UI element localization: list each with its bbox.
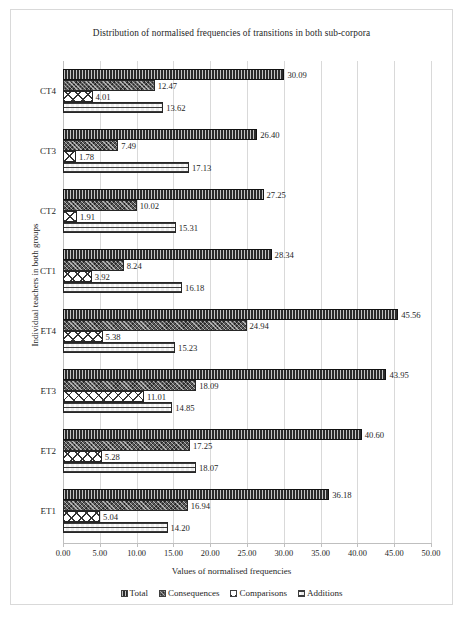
bar-value-label: 14.20 bbox=[168, 523, 190, 533]
legend-item[interactable]: Total bbox=[121, 588, 148, 598]
bar[interactable] bbox=[63, 522, 168, 533]
bar-value-label: 11.01 bbox=[144, 392, 166, 402]
x-axis-tick-label: 20.00 bbox=[201, 549, 220, 558]
bar-row: 18.09 bbox=[63, 380, 431, 391]
bar-value-label: 8.24 bbox=[124, 261, 142, 271]
legend-swatch-icon bbox=[230, 590, 237, 597]
legend-item[interactable]: Additions bbox=[298, 588, 343, 598]
x-axis-tick bbox=[173, 543, 174, 547]
category-label: ET3 bbox=[41, 386, 57, 396]
bar[interactable] bbox=[63, 440, 190, 451]
x-axis-tick bbox=[210, 543, 211, 547]
bar-row: 16.18 bbox=[63, 282, 431, 293]
legend-item[interactable]: Comparisons bbox=[230, 588, 287, 598]
chart-container: Distribution of normalised frequencies o… bbox=[10, 9, 453, 605]
bar[interactable] bbox=[63, 140, 118, 151]
bar-row: 5.38 bbox=[63, 331, 431, 342]
bar-row: 30.09 bbox=[63, 69, 431, 80]
bar-row: 13.62 bbox=[63, 102, 431, 113]
bar[interactable] bbox=[63, 402, 172, 413]
bar[interactable] bbox=[63, 462, 196, 473]
bar[interactable] bbox=[63, 69, 284, 80]
bar[interactable] bbox=[63, 511, 100, 522]
bar-row: 4.01 bbox=[63, 91, 431, 102]
bar-value-label: 1.78 bbox=[76, 152, 94, 162]
bar[interactable] bbox=[63, 500, 188, 511]
bar-value-label: 16.94 bbox=[188, 501, 210, 511]
bar-value-label: 10.02 bbox=[137, 201, 159, 211]
x-axis-tick-label: 40.00 bbox=[348, 549, 367, 558]
x-axis-tick bbox=[357, 543, 358, 547]
bar[interactable] bbox=[63, 342, 175, 353]
chart-legend: TotalConsequencesComparisonsAdditions bbox=[11, 588, 452, 598]
bar-value-label: 7.49 bbox=[118, 141, 136, 151]
bar-row: 17.13 bbox=[63, 162, 431, 173]
bar[interactable] bbox=[63, 320, 247, 331]
bar-group: CT128.348.243.9216.18 bbox=[63, 249, 431, 293]
bar[interactable] bbox=[63, 369, 386, 380]
bar-value-label: 17.25 bbox=[190, 441, 212, 451]
bar-value-label: 13.62 bbox=[163, 103, 185, 113]
bar[interactable] bbox=[63, 151, 76, 162]
category-label: ET4 bbox=[41, 326, 57, 336]
bar[interactable] bbox=[63, 489, 329, 500]
x-axis-title: Values of normalised frequencies bbox=[11, 566, 452, 576]
bar-row: 15.23 bbox=[63, 342, 431, 353]
x-axis-tick-label: 0.00 bbox=[56, 549, 71, 558]
bar[interactable] bbox=[63, 451, 102, 462]
bar-value-label: 43.95 bbox=[386, 370, 408, 380]
bar[interactable] bbox=[63, 91, 93, 102]
bar-value-label: 1.91 bbox=[77, 212, 95, 222]
x-axis-tick-label: 25.00 bbox=[238, 549, 257, 558]
x-axis-tick bbox=[284, 543, 285, 547]
bar[interactable] bbox=[63, 211, 77, 222]
y-axis-title: Individual teachers in both groups bbox=[30, 185, 40, 385]
bar-row: 45.56 bbox=[63, 309, 431, 320]
bar-row: 14.20 bbox=[63, 522, 431, 533]
bar-value-label: 27.25 bbox=[264, 190, 286, 200]
x-axis-tick bbox=[431, 543, 432, 547]
legend-swatch-icon bbox=[121, 590, 128, 597]
legend-label: Consequences bbox=[168, 588, 220, 598]
bar-row: 40.60 bbox=[63, 429, 431, 440]
bar-value-label: 5.28 bbox=[102, 452, 120, 462]
bar-row: 3.92 bbox=[63, 271, 431, 282]
bar[interactable] bbox=[63, 189, 264, 200]
bar[interactable] bbox=[63, 391, 144, 402]
bar[interactable] bbox=[63, 260, 124, 271]
bar-value-label: 18.09 bbox=[196, 381, 218, 391]
x-axis-tick bbox=[100, 543, 101, 547]
bar[interactable] bbox=[63, 282, 182, 293]
bar[interactable] bbox=[63, 222, 176, 233]
bar[interactable] bbox=[63, 380, 196, 391]
legend-item[interactable]: Consequences bbox=[159, 588, 220, 598]
bar-value-label: 24.94 bbox=[247, 321, 269, 331]
bar[interactable] bbox=[63, 271, 92, 282]
x-axis-tick-label: 15.00 bbox=[164, 549, 183, 558]
bar[interactable] bbox=[63, 429, 362, 440]
legend-label: Total bbox=[130, 588, 148, 598]
bar[interactable] bbox=[63, 249, 272, 260]
bar-row: 11.01 bbox=[63, 391, 431, 402]
bar-group: CT326.407.491.7817.13 bbox=[63, 129, 431, 173]
bar[interactable] bbox=[63, 200, 137, 211]
bar-row: 14.85 bbox=[63, 402, 431, 413]
bar-value-label: 16.18 bbox=[182, 283, 204, 293]
bar[interactable] bbox=[63, 309, 398, 320]
bar-row: 1.78 bbox=[63, 151, 431, 162]
category-label: CT4 bbox=[40, 86, 56, 96]
bar-row: 16.94 bbox=[63, 500, 431, 511]
bar[interactable] bbox=[63, 80, 155, 91]
bar-value-label: 15.31 bbox=[176, 223, 198, 233]
bar-row: 17.25 bbox=[63, 440, 431, 451]
bar[interactable] bbox=[63, 331, 103, 342]
bar-group: ET240.6017.255.2818.07 bbox=[63, 429, 431, 473]
bar-row: 24.94 bbox=[63, 320, 431, 331]
bar-value-label: 17.13 bbox=[189, 163, 211, 173]
bar-group: CT430.0912.474.0113.62 bbox=[63, 69, 431, 113]
x-axis-tick bbox=[394, 543, 395, 547]
bar[interactable] bbox=[63, 102, 163, 113]
bar-row: 27.25 bbox=[63, 189, 431, 200]
bar[interactable] bbox=[63, 129, 257, 140]
bar[interactable] bbox=[63, 162, 189, 173]
